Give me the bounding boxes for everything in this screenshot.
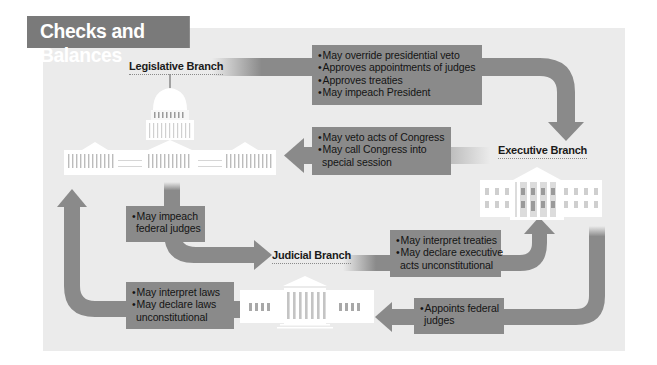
box-legislative-on-judicial: May impeach federal judges (126, 206, 205, 242)
box-judicial-on-legislative: May interpret laws May declare laws unco… (126, 282, 234, 329)
diagram-title: Checks and Balances (27, 16, 190, 48)
check-item: May declare executive (396, 246, 495, 258)
check-item-continued: unconstitutional (132, 311, 228, 323)
check-item-continued: acts unconstitutional (396, 259, 495, 271)
check-item: May override presidential veto (318, 49, 476, 61)
check-item: May impeach President (318, 86, 476, 98)
label-legislative-branch: Legislative Branch (129, 60, 223, 75)
check-item: May call Congress into (318, 143, 445, 155)
box-judicial-on-executive: May interpret treaties May declare execu… (390, 230, 501, 277)
check-item: May interpret treaties (396, 234, 495, 246)
checks-and-balances-diagram: Checks and Balances Legislative Branch E… (0, 0, 657, 365)
check-item-continued: special session (318, 156, 445, 168)
check-item-continued: judges (420, 314, 498, 326)
box-executive-on-judicial: Appoints federal judges (414, 298, 504, 334)
white-house-icon (480, 167, 602, 220)
supreme-court-icon (240, 276, 374, 329)
check-item: May declare laws (132, 298, 228, 310)
label-judicial-branch: Judicial Branch (272, 249, 351, 264)
check-item-continued: federal judges (132, 222, 199, 234)
check-item: May interpret laws (132, 286, 228, 298)
box-executive-on-legislative: May veto acts of Congress May call Congr… (312, 127, 451, 175)
check-item: May impeach (132, 210, 199, 222)
check-item: Approves treaties (318, 74, 476, 86)
check-item: May veto acts of Congress (318, 131, 445, 143)
check-item: Approves appointments of judges (318, 61, 476, 73)
check-item: Appoints federal (420, 302, 498, 314)
label-executive-branch: Executive Branch (498, 144, 587, 159)
capitol-building-icon (64, 74, 276, 175)
box-legislative-on-executive: May override presidential veto Approves … (312, 45, 482, 105)
